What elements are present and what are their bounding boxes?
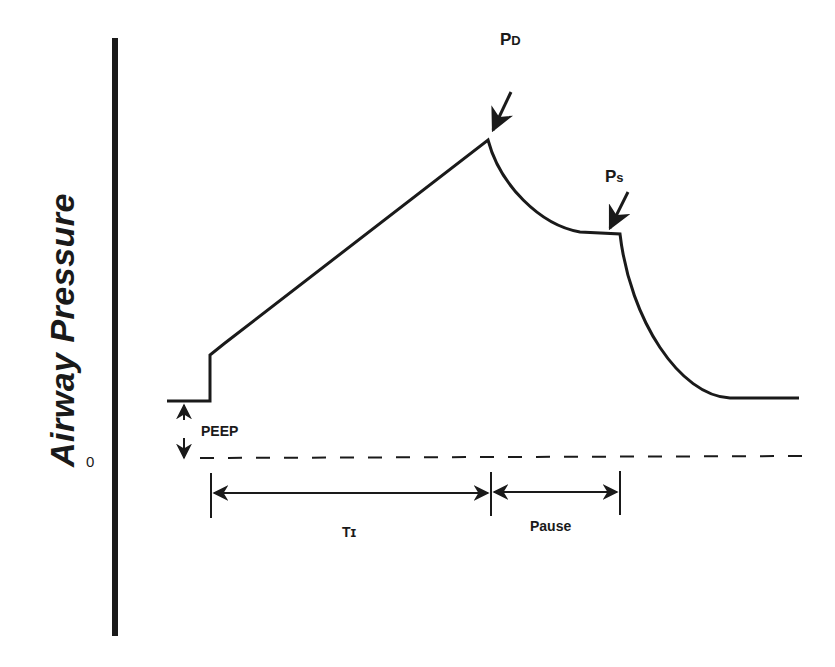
y-axis-label: Airway Pressure (43, 193, 82, 467)
ps-main: P (605, 167, 616, 186)
static-pressure-label: Ps (605, 167, 624, 187)
zero-reference-line (200, 456, 805, 458)
peep-label: PEEP (201, 423, 238, 439)
pd-sub: D (511, 33, 520, 48)
pressure-curve (167, 140, 799, 401)
pd-arrow (493, 92, 511, 130)
inspiratory-time-label: Tɪ (342, 524, 356, 540)
ps-arrow (610, 192, 628, 228)
ps-sub: s (616, 170, 623, 185)
zero-tick-label: 0 (86, 453, 94, 470)
peak-pressure-label: PD (500, 30, 521, 50)
pd-main: P (500, 30, 511, 49)
pressure-waveform-diagram (0, 0, 835, 667)
pause-label: Pause (530, 518, 571, 534)
